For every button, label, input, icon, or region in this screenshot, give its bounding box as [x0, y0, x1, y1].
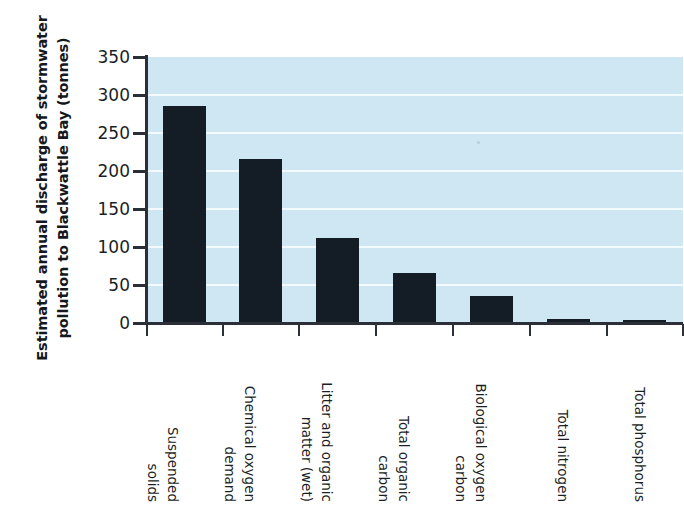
- x-label-0-line-1: solids: [143, 338, 163, 502]
- x-tick-mark-5: [529, 324, 531, 336]
- x-axis-label-rot-1: Chemical oxygen demand: [220, 338, 259, 502]
- x-axis-label-total-organic-carbon: Total organic carbon: [403, 338, 423, 502]
- x-label-1-line-0: Chemical oxygen: [239, 338, 259, 502]
- x-axis-label-rot-5: Total nitrogen: [552, 338, 572, 502]
- x-label-3-line-0: Total organic: [393, 338, 413, 502]
- x-label-5-line-0: Total nitrogen: [552, 338, 572, 502]
- bar-chart-figure: Estimated annual discharge of stormwater…: [0, 0, 684, 508]
- y-axis-title-line-2: pollution to Blackwattle Bay (tonnes): [53, 37, 74, 338]
- x-tick-mark-3: [375, 324, 377, 336]
- bar-biological-oxygen-carbon: [470, 296, 513, 322]
- bar-litter-and-organic-matter: [316, 238, 359, 322]
- gridline-150: [147, 208, 683, 210]
- x-label-3-line-1: carbon: [374, 338, 394, 502]
- x-axis-label-chemical-oxygen-demand: Chemical oxygen demand: [249, 338, 269, 502]
- x-tick-mark-1: [222, 324, 224, 336]
- x-axis-label-rot-4: Biological oxygen carbon: [451, 338, 490, 502]
- x-axis-line: [145, 322, 683, 325]
- paper-speck: [477, 141, 480, 144]
- y-tick-label-250: 250: [84, 123, 130, 143]
- plot-area: [147, 57, 683, 322]
- x-axis-label-suspended-solids: Suspended solids: [172, 338, 192, 502]
- x-tick-mark-0: [146, 324, 148, 336]
- x-axis-label-rot-2: Litter and organic matter (wet): [297, 338, 336, 502]
- x-tick-mark-4: [452, 324, 454, 336]
- x-tick-mark-2: [298, 324, 300, 336]
- x-label-4-line-1: carbon: [451, 338, 471, 502]
- x-axis-label-rot-0: Suspended solids: [143, 338, 182, 502]
- y-tick-mark-200: [133, 170, 146, 173]
- x-tick-mark-6: [606, 324, 608, 336]
- x-label-0-line-0: Suspended: [162, 338, 182, 502]
- x-label-4-line-0: Biological oxygen: [470, 338, 490, 502]
- y-tick-label-200: 200: [84, 161, 130, 181]
- y-tick-mark-0: [133, 322, 146, 325]
- y-tick-label-0: 0: [84, 313, 130, 333]
- y-tick-label-300: 300: [84, 85, 130, 105]
- x-axis-label-total-phosphorus: Total phosphorus: [639, 338, 659, 502]
- y-tick-label-150: 150: [84, 199, 130, 219]
- y-tick-mark-150: [133, 208, 146, 211]
- bar-suspended-solids: [163, 106, 206, 322]
- gridline-100: [147, 246, 683, 248]
- x-label-2-line-1: matter (wet): [297, 338, 317, 502]
- bar-chemical-oxygen-demand: [239, 159, 282, 322]
- x-axis-label-rot-6: Total phosphorus: [629, 338, 649, 502]
- y-tick-label-350: 350: [84, 47, 130, 67]
- x-axis-label-biological-oxygen-carbon: Biological oxygen carbon: [480, 338, 500, 502]
- x-label-6-line-0: Total phosphorus: [629, 338, 649, 502]
- x-label-2-line-0: Litter and organic: [316, 338, 336, 502]
- x-label-1-line-1: demand: [220, 338, 240, 502]
- x-axis-label-rot-3: Total organic carbon: [374, 338, 413, 502]
- y-tick-mark-350: [133, 56, 146, 59]
- y-tick-mark-100: [133, 246, 146, 249]
- gridline-300: [147, 94, 683, 96]
- y-tick-label-50: 50: [84, 275, 130, 295]
- gridline-200: [147, 170, 683, 172]
- x-axis-label-total-nitrogen: Total nitrogen: [562, 338, 582, 502]
- y-tick-label-100: 100: [84, 237, 130, 257]
- y-tick-mark-300: [133, 94, 146, 97]
- y-axis-title-line-1: Estimated annual discharge of stormwater: [32, 15, 53, 360]
- bar-total-organic-carbon: [393, 273, 436, 322]
- gridline-250: [147, 132, 683, 134]
- y-tick-mark-50: [133, 284, 146, 287]
- x-axis-label-litter-and-organic-matter: Litter and organic matter (wet): [326, 338, 346, 502]
- y-axis-title: Estimated annual discharge of stormwater…: [27, 23, 79, 353]
- y-axis-tick-labels: 0 50 100 150 200 250 300 350: [84, 0, 130, 508]
- y-tick-mark-250: [133, 132, 146, 135]
